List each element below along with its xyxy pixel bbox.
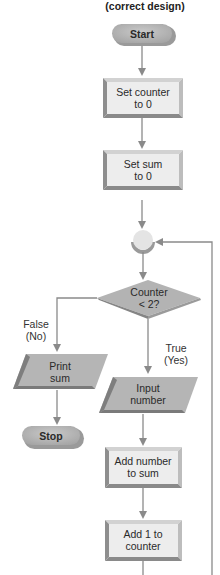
diagram-title: (correct design) (105, 0, 184, 12)
counter-decision: Counter < 2? (97, 280, 201, 319)
add-number-line2: to sum (127, 467, 159, 479)
input-number-input: Input number (99, 377, 198, 413)
add-number-line1: Add number (114, 455, 172, 467)
set-sum-process: Set sum to 0 (103, 150, 183, 190)
add-one-process: Add 1 to counter (105, 520, 182, 561)
input-number-line2: number (130, 394, 166, 406)
start-terminal: Start (112, 24, 176, 46)
loop-back-arrowhead-icon (155, 238, 163, 246)
false-label-line1: False (23, 318, 49, 330)
false-branch-arrow (57, 298, 97, 348)
print-sum-line1: Print (49, 360, 71, 372)
set-counter-line1: Set counter (116, 86, 170, 98)
stop-terminal: Stop (22, 426, 84, 449)
add-one-line1: Add 1 to (123, 528, 162, 540)
false-label-line2: (No) (26, 330, 46, 342)
set-counter-line2: to 0 (134, 98, 152, 110)
set-counter-process: Set counter to 0 (103, 78, 183, 118)
set-sum-line1: Set sum (124, 158, 163, 170)
print-sum-line2: sum (50, 372, 70, 384)
add-number-process: Add number to sum (105, 447, 182, 488)
print-sum-output: Print sum (13, 354, 108, 389)
start-label: Start (130, 28, 154, 40)
set-sum-line2: to 0 (134, 170, 152, 182)
decision-line2: < 2? (139, 298, 160, 310)
add-one-line2: counter (125, 540, 161, 552)
loop-connector (131, 230, 155, 254)
true-label-line1: True (165, 342, 186, 354)
flowchart: (correct design) Start Set counter to 0 … (0, 0, 220, 575)
stop-label: Stop (39, 430, 62, 442)
decision-line1: Counter (130, 286, 168, 298)
true-label-line2: (Yes) (164, 354, 188, 366)
input-number-line1: Input (136, 382, 159, 394)
